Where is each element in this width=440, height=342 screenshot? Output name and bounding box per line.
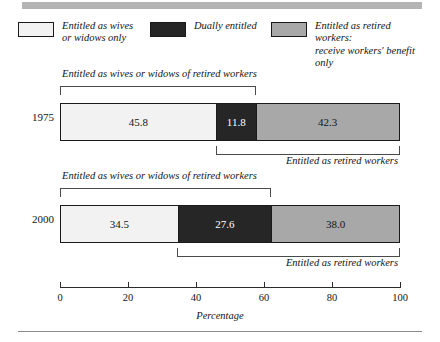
bar-row-1975: 45.811.842.3 [60,103,400,141]
x-axis-tick-label: 40 [176,292,216,303]
footer-rule [18,331,422,332]
x-axis-tick-label: 100 [380,292,420,303]
bar-segment-value: 27.6 [215,218,234,230]
bracket-label-1975-wives-or-widows: Entitled as wives or widows of retired w… [62,68,257,79]
row-label-2000: 2000 [18,213,54,225]
bar-row-2000: 34.527.638.0 [60,205,400,243]
bar-segment: 45.8 [61,104,216,140]
x-axis-tick-label: 0 [40,292,80,303]
x-axis-tick [332,282,333,288]
x-axis-tick [264,282,265,288]
plot-area: Entitled as wives or widows of retired w… [0,0,440,342]
bracket-label-2000-wives-or-widows: Entitled as wives or widows of retired w… [62,170,257,181]
bar-segment: 34.5 [61,206,178,242]
bar-segment-value: 38.0 [326,218,345,230]
bar-segment: 38.0 [271,206,399,242]
bracket-2000-wives-or-widows [60,188,271,197]
x-axis-title: Percentage [0,310,440,321]
x-axis-tick [400,282,401,288]
x-axis-tick [196,282,197,288]
bar-segment: 27.6 [178,206,271,242]
bar-segment-value: 42.3 [318,116,337,128]
x-axis-tick [60,282,61,288]
x-axis-tick [128,282,129,288]
x-axis-line [60,287,400,288]
bracket-2000-retired-workers [177,248,400,257]
bracket-label-2000-retired-workers: Entitled as retired workers [286,257,398,268]
bracket-label-1975-retired-workers: Entitled as retired workers [286,155,398,166]
bar-segment-value: 34.5 [110,218,129,230]
x-axis-tick-label: 80 [312,292,352,303]
bar-segment-value: 11.8 [227,116,246,128]
bar-segment: 42.3 [256,104,399,140]
chart-figure: Entitled as wives or widows only Dually … [0,0,440,342]
x-axis-tick-label: 60 [244,292,284,303]
bracket-1975-wives-or-widows [60,86,256,95]
row-label-1975: 1975 [18,111,54,123]
bracket-1975-retired-workers [216,146,400,155]
bar-segment-value: 45.8 [129,116,148,128]
x-axis-tick-label: 20 [108,292,148,303]
bar-segment: 11.8 [216,104,256,140]
